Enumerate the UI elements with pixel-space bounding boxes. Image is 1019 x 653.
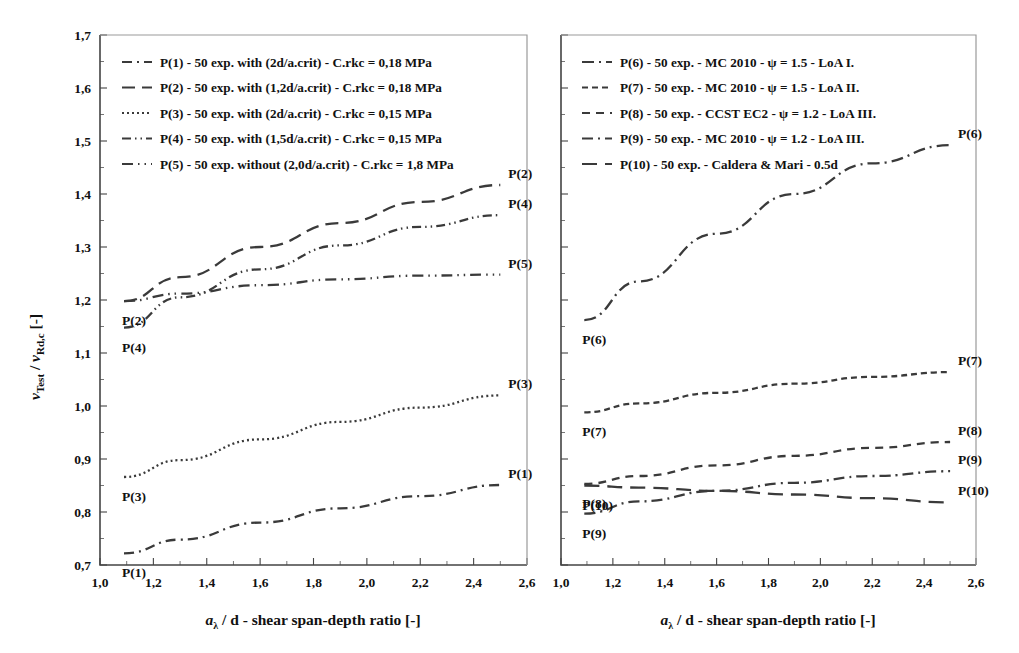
x-tick-label: 1,2	[145, 575, 162, 590]
curve-P(2)	[124, 185, 500, 301]
y-tick-label: 1,2	[74, 293, 91, 308]
series-end-label-P(4): P(4)	[508, 196, 532, 211]
curve-P(4)	[124, 215, 500, 327]
y-axis-title-slash: /	[26, 362, 43, 374]
right-plot-svg: 1,01,21,41,61,82,02,22,42,6 P(6) - 50 ex…	[540, 0, 1019, 653]
series-curves-right	[584, 145, 950, 513]
series-start-label-P(3): P(3)	[122, 489, 146, 504]
x-axis-title-left: aλ / d - shear span-depth ratio [-]	[205, 611, 420, 631]
y-tick-label: 1,6	[74, 81, 91, 96]
x-tick-label: 2,4	[465, 575, 482, 590]
y-tick-label: 1,3	[74, 240, 91, 255]
series-end-label-P(7): P(7)	[958, 353, 982, 368]
series-start-label-P(4): P(4)	[122, 340, 146, 355]
series-end-label-P(1): P(1)	[508, 466, 532, 481]
curve-P(10)	[584, 486, 950, 503]
y-tick-label: 0,7	[74, 558, 91, 573]
y-tick-label: 1,4	[74, 187, 91, 202]
y-tick-label: 1,0	[74, 399, 91, 414]
legend-label-P(3): P(3) - 50 exp. with (2d/a.crit) - C.rkc …	[160, 106, 432, 121]
x-tick-label: 2,2	[864, 575, 881, 590]
series-curves-left	[124, 185, 500, 553]
x-tick-label: 1,6	[708, 575, 725, 590]
y-tick-label: 0,9	[74, 452, 91, 467]
svg-text:aλ / d - shear span-depth rati: aλ / d - shear span-depth ratio [-]	[660, 611, 875, 631]
legend-label-P(7): P(7) - 50 exp. - MC 2010 - ψ = 1.5 - LoA…	[620, 80, 859, 95]
x-axis-ticks-left: 1,01,21,41,61,82,02,22,42,6	[92, 558, 536, 590]
curve-P(3)	[124, 395, 500, 477]
legend-label-P(5): P(5) - 50 exp. without (2,0d/a.crit) - C…	[160, 157, 454, 172]
x-tick-label: 1,0	[553, 575, 570, 590]
legend-label-P(9): P(9) - 50 exp. - MC 2010 - ψ = 1.2 - LoA…	[620, 131, 864, 146]
x-axis-ticks-right: 1,01,21,41,61,82,02,22,42,6	[553, 558, 985, 590]
series-start-label-P(7): P(7)	[582, 424, 606, 439]
legend-label-P(2): P(2) - 50 exp. with (1,2d/a.crit) - C.rk…	[160, 80, 442, 95]
legend-label-P(6): P(6) - 50 exp. - MC 2010 - ψ = 1.5 - LoA…	[620, 55, 854, 70]
x-tick-label: 2,0	[358, 575, 375, 590]
series-end-label-P(8): P(8)	[958, 423, 982, 438]
series-labels-right: P(6)P(6)P(7)P(7)P(8)P(8)P(9)P(9)P(10)P(1…	[582, 126, 988, 540]
y-axis-ticks-left: 0,70,80,91,01,11,21,31,41,51,61,7	[74, 28, 107, 573]
series-end-label-P(5): P(5)	[508, 256, 532, 271]
y-tick-label: 1,5	[74, 134, 91, 149]
x-axis-title-right: aλ / d - shear span-depth ratio [-]	[660, 611, 875, 631]
x-tick-label: 1,6	[252, 575, 269, 590]
series-end-label-P(2): P(2)	[508, 166, 532, 181]
series-end-label-P(3): P(3)	[508, 376, 532, 391]
curve-P(5)	[124, 275, 500, 302]
x-tick-label: 2,6	[968, 575, 985, 590]
chart-panel-left: vTest / vRd,c [-] 0,70,80,91,01,11,21,31…	[0, 0, 540, 653]
y-axis-title-sub1: Test	[34, 374, 46, 393]
chart-panel-right: 1,01,21,41,61,82,02,22,42,6 P(6) - 50 ex…	[540, 0, 1019, 653]
legend-left: P(1) - 50 exp. with (2d/a.crit) - C.rkc …	[122, 55, 454, 172]
curve-P(1)	[124, 485, 500, 553]
svg-text:vTest / vRd,c [-]: vTest / vRd,c [-]	[26, 314, 46, 400]
series-start-label-P(6): P(6)	[582, 332, 606, 347]
series-labels-left: P(1)P(1)P(2)P(2)P(3)P(3)P(4)P(4)P(5)	[122, 166, 532, 580]
x-tick-label: 1,2	[604, 575, 621, 590]
x-tick-label: 1,4	[198, 575, 215, 590]
legend-right: P(6) - 50 exp. - MC 2010 - ψ = 1.5 - LoA…	[582, 55, 876, 172]
series-end-label-P(6): P(6)	[958, 126, 982, 141]
x-tick-label: 2,2	[412, 575, 429, 590]
left-plot-svg: vTest / vRd,c [-] 0,70,80,91,01,11,21,31…	[0, 0, 540, 653]
y-tick-label: 1,1	[74, 346, 91, 361]
x-tick-label: 2,0	[812, 575, 829, 590]
series-end-label-P(10): P(10)	[958, 483, 989, 498]
x-tick-label: 1,8	[305, 575, 322, 590]
x-tick-label: 2,4	[916, 575, 933, 590]
curve-P(7)	[584, 372, 950, 412]
x-axis-title-rest: / d - shear span-depth ratio [-]	[218, 611, 421, 628]
series-end-label-P(9): P(9)	[958, 452, 982, 467]
legend-label-P(1): P(1) - 50 exp. with (2d/a.crit) - C.rkc …	[160, 55, 432, 70]
y-axis-title-unit: [-]	[26, 314, 43, 333]
legend-label-P(8): P(8) - 50 exp. - CCST EC2 - ψ = 1.2 - Lo…	[620, 106, 876, 121]
y-axis-ticks-right	[561, 35, 568, 565]
figure-container: vTest / vRd,c [-] 0,70,80,91,01,11,21,31…	[0, 0, 1019, 653]
y-axis-title: vTest / vRd,c [-]	[26, 314, 46, 400]
x-axis-title-rest-right: / d - shear span-depth ratio [-]	[673, 611, 876, 628]
legend-label-P(10): P(10) - 50 exp. - Caldera & Mari - 0.5d	[620, 157, 839, 172]
y-tick-label: 0,8	[74, 505, 91, 520]
x-tick-label: 2,6	[519, 575, 536, 590]
x-tick-label: 1,4	[656, 575, 673, 590]
x-tick-label: 1,0	[92, 575, 109, 590]
svg-text:aλ / d - shear span-depth rati: aλ / d - shear span-depth ratio [-]	[205, 611, 420, 631]
series-start-label-P(1): P(1)	[122, 565, 146, 580]
y-tick-label: 1,7	[74, 28, 91, 43]
curve-P(8)	[584, 442, 950, 484]
legend-label-P(4): P(4) - 50 exp. with (1,5d/a.crit) - C.rk…	[160, 131, 442, 146]
curve-P(9)	[584, 471, 950, 513]
y-axis-title-sub2: Rd,c	[34, 333, 46, 355]
series-start-label-P(2): P(2)	[122, 313, 146, 328]
series-start-label-P(10): P(10)	[582, 498, 613, 513]
series-start-label-P(9): P(9)	[582, 526, 606, 541]
x-tick-label: 1,8	[760, 575, 777, 590]
